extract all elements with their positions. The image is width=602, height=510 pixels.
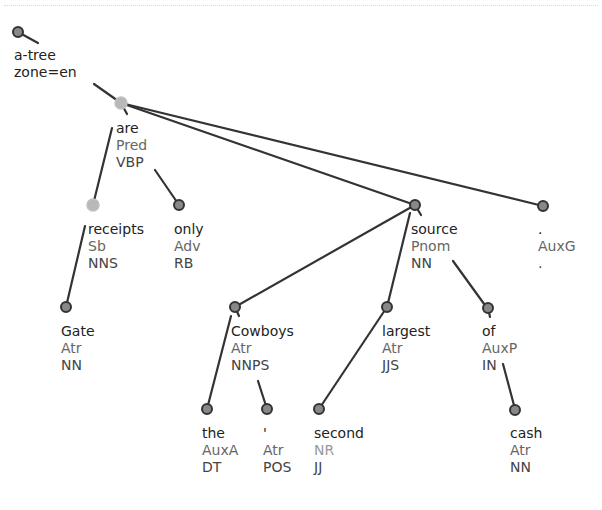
node-the[interactable] <box>202 404 212 414</box>
node-form: Cowboys <box>231 323 294 340</box>
node-are[interactable] <box>115 97 127 109</box>
node-cash[interactable] <box>510 405 520 415</box>
node-tag: POS <box>263 459 291 476</box>
node-form: largest <box>382 323 430 340</box>
label-source: source Pnom NN <box>411 221 458 272</box>
edge-are-only <box>155 170 179 205</box>
node-afun: AuxA <box>202 442 238 459</box>
node-tag: NNS <box>88 255 144 272</box>
node-afun: Atr <box>263 442 291 459</box>
node-afun: Pnom <box>411 238 458 255</box>
node-tag: NN <box>411 255 458 272</box>
label-cowboys: Cowboys Atr NNPS <box>231 323 294 374</box>
node-form: only <box>174 221 204 238</box>
node-tag: NN <box>61 357 95 374</box>
node-form: receipts <box>88 221 144 238</box>
node-apos[interactable] <box>262 404 272 414</box>
label-second: second NR JJ <box>314 425 364 476</box>
root-line2: zone=en <box>14 64 77 81</box>
label-gate: Gate Atr NN <box>61 323 95 374</box>
label-cash: cash Atr NN <box>510 425 542 476</box>
node-largest[interactable] <box>382 302 392 312</box>
edge-are-source <box>121 103 415 205</box>
node-root[interactable] <box>13 27 23 37</box>
node-afun: Pred <box>116 137 147 154</box>
edge-receipts-gate <box>66 226 85 307</box>
node-tag: IN <box>482 357 517 374</box>
node-cowboys[interactable] <box>230 302 240 312</box>
node-form: Gate <box>61 323 95 340</box>
root-line1: a-tree <box>14 47 77 64</box>
node-form: of <box>482 323 517 340</box>
node-tag: JJS <box>382 357 430 374</box>
edge-are-receipts <box>93 128 112 205</box>
node-form: source <box>411 221 458 238</box>
node-second[interactable] <box>314 404 324 414</box>
label-the: the AuxA DT <box>202 425 238 476</box>
node-receipts[interactable] <box>87 199 99 211</box>
node-tag: NNPS <box>231 357 294 374</box>
node-afun: AuxG <box>538 238 576 255</box>
node-form: . <box>538 221 576 238</box>
label-of: of AuxP IN <box>482 323 517 374</box>
node-tag: NN <box>510 459 542 476</box>
node-afun: Atr <box>61 340 95 357</box>
node-afun: NR <box>314 442 364 459</box>
edge-source-largest <box>387 213 410 307</box>
label-apos: ' Atr POS <box>263 425 291 476</box>
node-tag: DT <box>202 459 238 476</box>
node-afun: Atr <box>382 340 430 357</box>
node-tag: . <box>538 255 576 272</box>
node-tag: JJ <box>314 459 364 476</box>
node-afun: Sb <box>88 238 144 255</box>
label-only: only Adv RB <box>174 221 204 272</box>
node-afun: Atr <box>231 340 294 357</box>
root-label: a-tree zone=en <box>14 47 77 81</box>
node-tag: VBP <box>116 154 147 171</box>
node-form: the <box>202 425 238 442</box>
edge-source-of <box>453 261 487 308</box>
node-form: cash <box>510 425 542 442</box>
edge-cowboys-the <box>207 316 231 409</box>
node-afun: Atr <box>510 442 542 459</box>
node-form: second <box>314 425 364 442</box>
label-largest: largest Atr JJS <box>382 323 430 374</box>
edge-source-cowboys <box>235 205 415 307</box>
node-only[interactable] <box>174 200 184 210</box>
node-source[interactable] <box>410 200 420 210</box>
label-receipts: receipts Sb NNS <box>88 221 144 272</box>
node-gate[interactable] <box>61 302 71 312</box>
node-tag: RB <box>174 255 204 272</box>
label-period: . AuxG . <box>538 221 576 272</box>
edge-are-period <box>121 103 543 206</box>
node-afun: AuxP <box>482 340 517 357</box>
node-of[interactable] <box>483 303 493 313</box>
node-period[interactable] <box>538 201 548 211</box>
edge-largest-second <box>319 307 387 409</box>
label-are: are Pred VBP <box>116 120 147 171</box>
node-form: are <box>116 120 147 137</box>
node-afun: Adv <box>174 238 204 255</box>
node-form: ' <box>263 425 291 442</box>
